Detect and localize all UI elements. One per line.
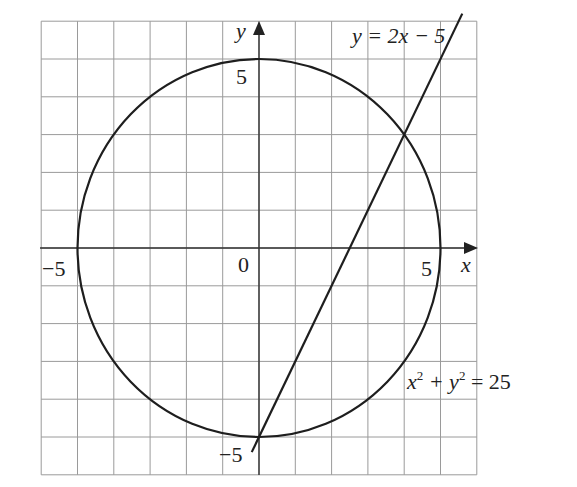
tick-label-y-neg5: −5 — [219, 442, 242, 467]
circle-eq-x: x — [406, 369, 417, 394]
x-axis-label: x — [460, 252, 471, 277]
y-axis-arrow-icon — [253, 21, 265, 35]
axes — [40, 21, 478, 475]
tick-label-x-neg5: −5 — [42, 256, 65, 281]
tick-label-x-5: 5 — [421, 256, 432, 281]
circle-eq-rhs: = 25 — [465, 369, 510, 394]
line-equation-label: y = 2x − 5 — [350, 23, 445, 48]
y-axis-label: y — [234, 18, 246, 43]
circle-equation-label: x2 + y2 = 25 — [406, 368, 511, 394]
circle-eq-plus-y: + y — [423, 369, 459, 394]
origin-label: 0 — [238, 252, 249, 277]
tick-label-y-5: 5 — [236, 64, 247, 89]
coordinate-diagram: y x 0 5 5 −5 −5 y = 2x − 5 x2 + y2 = 25 — [0, 0, 577, 487]
